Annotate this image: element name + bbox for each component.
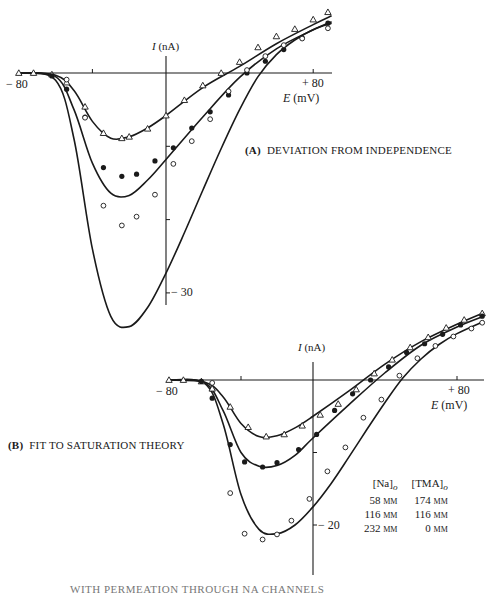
panel-a-triangle-marker [255, 44, 261, 50]
panel-b-filled-circle-marker [440, 332, 445, 337]
panel-a-open-circle-marker [263, 54, 268, 59]
panel-a-open-circle-marker [171, 161, 176, 166]
panel-b-open-circle-marker [325, 469, 330, 474]
panel-a-y-axis-label: I (nA) [152, 40, 179, 52]
panel-a-open-circle-marker [226, 89, 231, 94]
panel-a-triangle-marker [200, 82, 206, 88]
panel-a-title: (A)DEVIATION FROM INDEPENDENCE [245, 144, 452, 156]
caption-fragment: WITH PERMEATION THROUGH NA CHANNELS [70, 583, 324, 595]
panel-b-x-axis-unit: (mV) [438, 398, 467, 412]
panel-a-open-circle-marker [208, 117, 213, 122]
panel-b-open-circle-marker [397, 373, 402, 378]
panel-a-triangle-marker [236, 59, 242, 65]
panel-b-triangle-marker [335, 401, 341, 407]
panel-a-triangle-marker [292, 26, 298, 32]
panel-a-y-axis-unit: (nA) [156, 40, 180, 52]
panel-b-filled-circle-marker [210, 396, 215, 401]
panel-b-open-circle-marker [361, 415, 366, 420]
panel-b-title-text: FIT TO SATURATION THEORY [29, 439, 184, 451]
panel-a-x-axis-label: E (mV) [283, 91, 319, 106]
panel-a-open-circle-marker [281, 43, 286, 48]
panel-a-open-circle-marker [64, 77, 69, 82]
panel-b-filled-circle-marker [228, 442, 233, 447]
panel-b-filled-circle-marker [350, 391, 355, 396]
panel-b-filled-circle-marker [260, 464, 265, 469]
legend-cell-tma: 116 mm [397, 507, 447, 521]
panel-b-fit-curve [169, 313, 484, 438]
panel-b-open-circle-marker [210, 381, 215, 386]
panel-b-legend: [Na]o [TMA]o 58 mm 174 mm 116 mm 116 mm … [364, 476, 448, 535]
panel-b-open-circle-marker [260, 537, 265, 542]
panel-b-open-circle-marker [343, 445, 348, 450]
panel-b-open-circle-marker [415, 356, 420, 361]
panel-b-open-circle-marker [228, 491, 233, 496]
panel-b-open-circle-marker [379, 397, 384, 402]
panel-b-y-axis-unit: (nA) [302, 341, 326, 353]
panel-a-x-axis-unit: (mV) [290, 91, 319, 105]
panel-b-x-axis-label: E (mV) [431, 398, 467, 413]
panel-a-open-circle-marker [189, 139, 194, 144]
panel-b-triangle-marker [245, 424, 251, 430]
panel-b-filled-circle-marker [368, 377, 373, 382]
panel-a-filled-circle-marker [171, 145, 176, 150]
panel-b-open-circle-marker [275, 532, 280, 537]
legend-cell-tma: 174 mm [397, 493, 447, 507]
panel-a-open-circle-marker [83, 115, 88, 120]
panel-a-open-circle-marker [300, 36, 305, 41]
panel-a-open-circle-marker [326, 26, 331, 31]
panel-a-open-circle-marker [134, 214, 139, 219]
panel-b-triangle-marker [263, 433, 269, 439]
legend-row: 58 mm 174 mm [364, 493, 448, 507]
panel-b-filled-circle-marker [404, 350, 409, 355]
panel-b-x-min-label: − 80 [156, 384, 178, 399]
legend-row: 116 mm 116 mm [364, 507, 448, 521]
panel-b-filled-circle-marker [274, 460, 279, 465]
panel-b-filled-circle-marker [480, 314, 485, 319]
panel-a-filled-circle-marker [263, 59, 268, 64]
panel-b-y-axis-label: I (nA) [298, 341, 325, 353]
panel-b-filled-circle-marker [296, 447, 301, 452]
panel-b-filled-circle-marker [458, 322, 463, 327]
panel-a-open-circle-marker [101, 203, 106, 208]
panel-b-open-circle-marker [433, 344, 438, 349]
panel-a-filled-circle-marker [101, 165, 106, 170]
legend-cell-tma: 0 mm [397, 521, 447, 535]
panel-b-open-circle-marker [289, 518, 294, 523]
panel-a-triangle-marker [325, 9, 331, 15]
panel-a-filled-circle-marker [325, 21, 330, 26]
legend-row: 232 mm 0 mm [364, 521, 448, 535]
panel-a-letter: (A) [245, 144, 261, 156]
legend-cell-na: 116 mm [364, 507, 397, 521]
panel-a-filled-circle-marker [64, 87, 69, 92]
legend-header-na: [Na]o [364, 476, 397, 493]
panel-b-letter: (B) [8, 439, 23, 451]
panel-a-open-circle-marker [119, 223, 124, 228]
panel-b-filled-circle-marker [242, 459, 247, 464]
panel-a-filled-circle-marker [152, 158, 157, 163]
panel-b-open-circle-marker [451, 334, 456, 339]
panel-a-filled-circle-marker [134, 172, 139, 177]
panel-b-filled-circle-marker [199, 379, 204, 384]
panel-b-open-circle-marker [307, 497, 312, 502]
legend-header-tma: [TMA]o [397, 476, 447, 493]
panel-b-open-circle-marker [469, 326, 474, 331]
panel-b-filled-circle-marker [332, 408, 337, 413]
panel-a-title-text: DEVIATION FROM INDEPENDENCE [267, 144, 452, 156]
legend-header-row: [Na]o [TMA]o [364, 476, 448, 493]
panel-b-filled-circle-marker [386, 364, 391, 369]
panel-a-triangle-marker [310, 16, 316, 22]
legend-table: [Na]o [TMA]o 58 mm 174 mm 116 mm 116 mm … [364, 476, 448, 535]
panel-b-fit-curve [169, 316, 484, 467]
panel-a-fit-curve [19, 23, 332, 327]
panel-b-filled-circle-marker [314, 432, 319, 437]
panel-a-open-circle-marker [245, 68, 250, 73]
panel-a-y-tick-label: − 30 [171, 285, 193, 300]
panel-a-triangle-marker [273, 33, 279, 39]
panel-b-y-tick-label: − 20 [318, 518, 340, 533]
panel-a-filled-circle-marker [119, 174, 124, 179]
panel-a-open-circle-marker [153, 192, 158, 197]
panel-b-x-max-label: + 80 [448, 383, 470, 398]
panel-b-open-circle-marker [242, 531, 247, 536]
legend-cell-na: 232 mm [364, 521, 397, 535]
legend-cell-na: 58 mm [364, 493, 397, 507]
